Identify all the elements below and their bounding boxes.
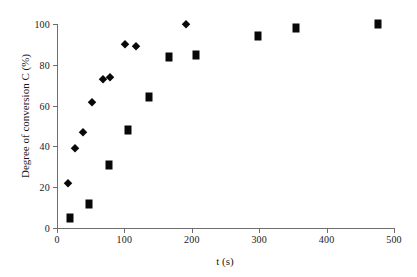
y-axis-tick-label: 40 (40, 141, 50, 152)
y-axis-tick (53, 65, 57, 66)
x-axis-tick (327, 229, 328, 233)
x-axis-tick-label: 400 (319, 234, 335, 245)
data-point-square (124, 126, 131, 135)
y-axis-tick (53, 228, 57, 229)
data-point-square (374, 20, 381, 29)
x-axis-title: t (s) (0, 255, 417, 267)
x-axis-tick-label: 200 (184, 234, 200, 245)
y-axis-line (57, 24, 58, 229)
y-axis-tick (53, 24, 57, 25)
data-point-square (165, 52, 172, 61)
data-point-square (145, 93, 152, 102)
x-axis-line (57, 228, 395, 229)
y-axis-tick-label: 100 (34, 19, 50, 30)
y-axis-tick-label: 0 (45, 223, 50, 234)
x-axis-tick (259, 229, 260, 233)
x-axis-tick-label: 0 (54, 234, 59, 245)
x-axis-tick-label: 300 (251, 234, 267, 245)
y-axis-tick (53, 106, 57, 107)
x-axis-tick (192, 229, 193, 233)
x-axis-tick (124, 229, 125, 233)
y-axis-tick (53, 146, 57, 147)
data-point-square (66, 213, 73, 222)
data-point-square (105, 160, 112, 169)
x-axis-tick-label: 100 (117, 234, 133, 245)
plot-area (57, 24, 394, 228)
data-point-square (293, 24, 300, 33)
y-axis-tick-label: 80 (40, 59, 50, 70)
y-axis-tick (53, 187, 57, 188)
x-axis-tick (394, 229, 395, 233)
x-axis-tick (57, 229, 58, 233)
y-axis-title: Degree of conversion C (%) (19, 16, 31, 216)
data-point-square (192, 50, 199, 59)
scatter-chart-figure: t (s) Degree of conversion C (%) 0100200… (0, 0, 417, 277)
y-axis-tick-label: 20 (40, 182, 50, 193)
data-point-square (85, 199, 92, 208)
x-axis-tick-label: 500 (386, 234, 402, 245)
y-axis-tick-label: 60 (40, 100, 50, 111)
data-point-square (254, 32, 261, 41)
